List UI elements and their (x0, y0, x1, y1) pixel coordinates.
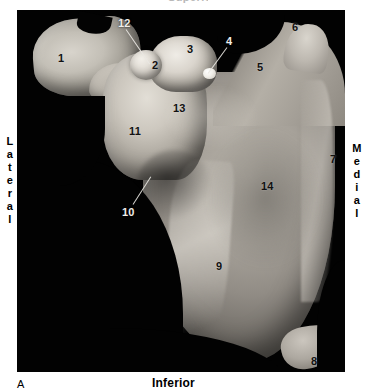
orientation-medial-text: Medial (350, 142, 364, 220)
structure-label-6: 6 (292, 22, 298, 33)
structure-label-10: 10 (122, 207, 135, 218)
structure-label-12: 12 (118, 18, 131, 29)
structure-label-11: 11 (129, 126, 141, 137)
bone-infraspinous-fossa (207, 128, 323, 268)
panel-letter: A (17, 378, 24, 390)
structure-label-4: 4 (226, 36, 232, 47)
structure-label-1: 1 (58, 53, 64, 64)
structure-label-13: 13 (173, 103, 186, 114)
structure-label-8: 8 (311, 356, 317, 367)
structure-label-5: 5 (257, 62, 263, 73)
structure-label-2: 2 (152, 60, 158, 71)
structure-label-14: 14 (261, 181, 274, 192)
orientation-label-lateral: Lateral (3, 135, 17, 226)
top-cutoff-label: Superior (168, 0, 208, 4)
structure-label-7: 7 (330, 154, 336, 165)
structure-label-9: 9 (216, 261, 222, 272)
structure-label-3: 3 (187, 44, 193, 55)
specimen-photograph: 1234567891011121314 (17, 10, 345, 372)
orientation-label-medial: Medial (350, 142, 364, 220)
orientation-lateral-text: Lateral (3, 135, 17, 226)
orientation-label-inferior: Inferior (152, 376, 195, 390)
figure-root: Superior 1234567891011121314 Lateral Med… (0, 0, 365, 392)
bone-supraspinous-fossa (167, 88, 257, 148)
